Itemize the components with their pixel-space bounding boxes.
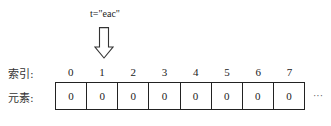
array-cell-7: 0 [273, 83, 304, 109]
index-3: 3 [149, 66, 180, 78]
pointer-label: t="eac" [80, 8, 130, 19]
array-cell-1: 0 [86, 83, 117, 109]
index-2: 2 [118, 66, 149, 78]
index-row: 0 1 2 3 4 5 6 7 [55, 66, 305, 78]
index-row-label: 索引: [8, 65, 34, 81]
array-cell-5: 0 [211, 83, 242, 109]
index-0: 0 [55, 66, 86, 78]
array-cell-2: 0 [117, 83, 148, 109]
array-cells: 0 0 0 0 0 0 0 0 [55, 82, 305, 110]
element-row-label: 元素: [8, 89, 34, 105]
down-arrow-icon [94, 27, 114, 59]
array-cell-3: 0 [148, 83, 179, 109]
index-1: 1 [86, 66, 117, 78]
array-cell-0: 0 [56, 83, 86, 109]
index-7: 7 [274, 66, 305, 78]
array-cell-4: 0 [180, 83, 211, 109]
index-4: 4 [180, 66, 211, 78]
index-6: 6 [243, 66, 274, 78]
index-5: 5 [211, 66, 242, 78]
ellipsis: ··· [313, 90, 323, 101]
array-cell-6: 0 [242, 83, 273, 109]
